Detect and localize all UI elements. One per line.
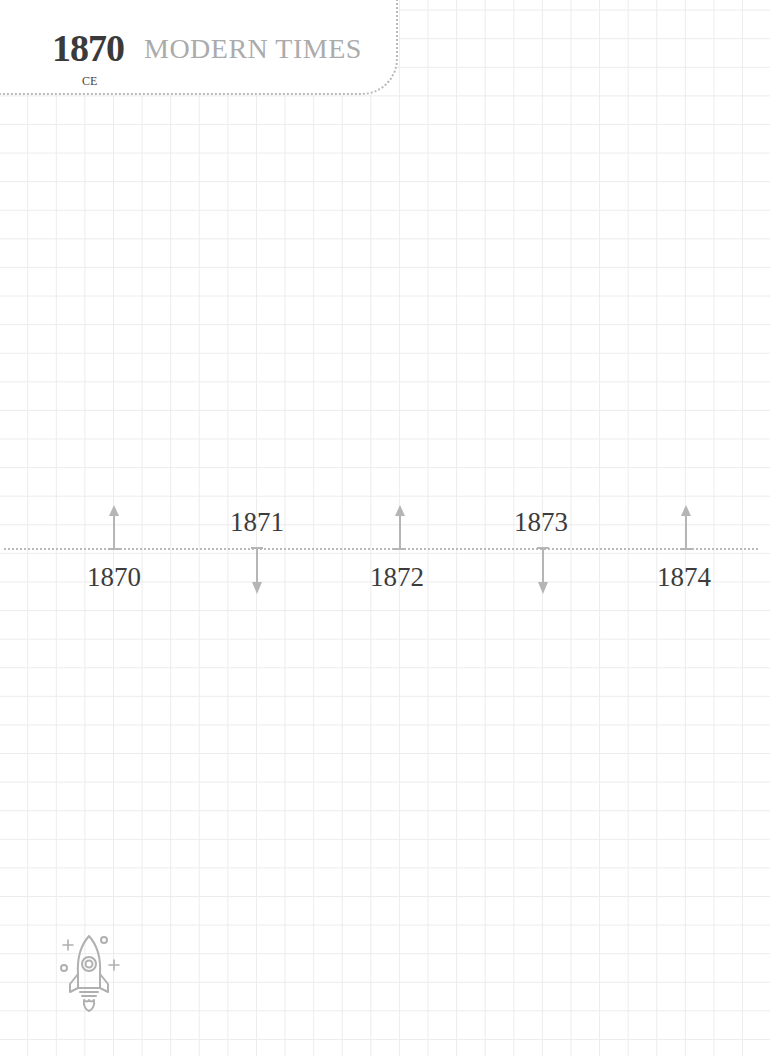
arrow-up-icon: [390, 504, 410, 551]
timeline-year-label: 1873: [501, 509, 581, 536]
timeline-year-label: 1874: [644, 564, 724, 591]
arrow-down-icon: [533, 546, 553, 595]
arrow-up-icon: [676, 504, 696, 551]
timeline-year-label: 1870: [74, 564, 154, 591]
arrow-up-icon: [104, 504, 124, 551]
timeline-year-label: 1872: [357, 564, 437, 591]
arrow-down-icon: [247, 546, 267, 595]
header-era: CE: [82, 75, 97, 87]
header-year: 1870: [52, 29, 124, 67]
timeline-year-label: 1871: [217, 509, 297, 536]
rocket-icon: [56, 930, 126, 1015]
period-title: MODERN TIMES: [144, 35, 362, 63]
